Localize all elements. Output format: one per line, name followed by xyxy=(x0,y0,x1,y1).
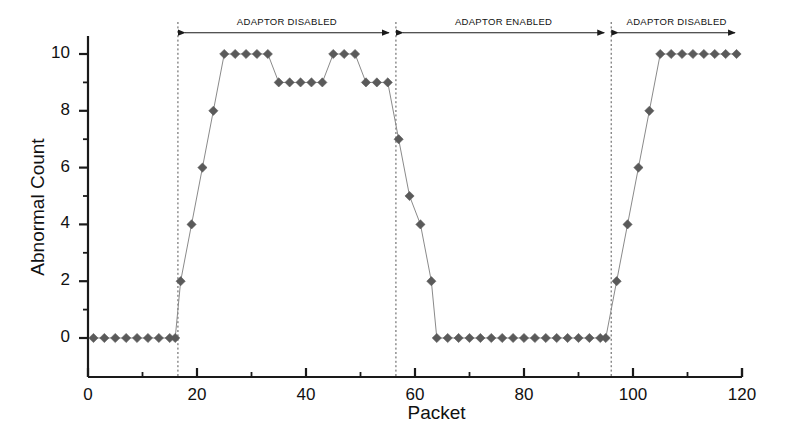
data-point xyxy=(612,277,621,286)
data-point xyxy=(585,333,594,342)
data-point xyxy=(645,106,654,115)
y-tick-label: 6 xyxy=(30,157,70,177)
data-point xyxy=(187,220,196,229)
data-point xyxy=(519,333,528,342)
data-point xyxy=(563,333,572,342)
data-point xyxy=(372,78,381,87)
data-point xyxy=(721,49,730,58)
data-point xyxy=(350,49,359,58)
data-point xyxy=(552,333,561,342)
data-point xyxy=(509,333,518,342)
y-tick-label: 0 xyxy=(30,327,70,347)
data-point xyxy=(710,49,719,58)
data-point xyxy=(541,333,550,342)
data-point xyxy=(296,78,305,87)
data-point xyxy=(241,49,250,58)
x-tick-label: 80 xyxy=(494,385,554,405)
region-annotation-label: ADAPTOR DISABLED xyxy=(587,16,767,27)
data-point xyxy=(231,49,240,58)
data-point xyxy=(405,191,414,200)
data-point xyxy=(132,333,141,342)
data-point xyxy=(209,106,218,115)
data-point xyxy=(318,78,327,87)
data-point xyxy=(285,78,294,87)
data-point xyxy=(274,78,283,87)
y-tick-label: 8 xyxy=(30,100,70,120)
data-point xyxy=(699,49,708,58)
data-point xyxy=(340,49,349,58)
chart-canvas xyxy=(0,0,785,446)
data-point xyxy=(623,220,632,229)
data-point xyxy=(220,49,229,58)
x-axis-title: Packet xyxy=(0,402,785,424)
data-point xyxy=(476,333,485,342)
data-point xyxy=(89,333,98,342)
x-tick-label: 120 xyxy=(712,385,772,405)
data-point xyxy=(432,333,441,342)
data-point xyxy=(111,333,120,342)
chart-figure: Abnormal Count Packet 0246810 0204060801… xyxy=(0,0,785,446)
data-point xyxy=(329,49,338,58)
y-tick-label: 4 xyxy=(30,213,70,233)
data-point xyxy=(361,78,370,87)
data-point xyxy=(443,333,452,342)
series-markers xyxy=(89,49,741,342)
data-point xyxy=(530,333,539,342)
data-point xyxy=(688,49,697,58)
data-point xyxy=(601,333,610,342)
data-point xyxy=(498,333,507,342)
x-tick-label: 100 xyxy=(603,385,663,405)
x-axis-title-text: Packet xyxy=(407,402,465,423)
data-point xyxy=(263,49,272,58)
x-tick-label: 20 xyxy=(167,385,227,405)
data-point xyxy=(383,78,392,87)
x-tick-label: 40 xyxy=(276,385,336,405)
data-point xyxy=(656,49,665,58)
data-point xyxy=(427,277,436,286)
x-tick-label: 60 xyxy=(385,385,445,405)
series-line xyxy=(93,54,736,338)
data-point xyxy=(634,163,643,172)
region-annotation-label: ADAPTOR ENABLED xyxy=(414,16,594,27)
data-point xyxy=(732,49,741,58)
data-point xyxy=(465,333,474,342)
data-point xyxy=(667,49,676,58)
data-point xyxy=(122,333,131,342)
data-point xyxy=(143,333,152,342)
data-point xyxy=(252,49,261,58)
data-point xyxy=(574,333,583,342)
data-point xyxy=(487,333,496,342)
data-point xyxy=(416,220,425,229)
data-point xyxy=(454,333,463,342)
y-tick-label: 10 xyxy=(30,43,70,63)
data-point xyxy=(307,78,316,87)
data-point xyxy=(154,333,163,342)
data-point xyxy=(677,49,686,58)
x-tick-label: 0 xyxy=(58,385,118,405)
data-point xyxy=(100,333,109,342)
y-tick-label: 2 xyxy=(30,270,70,290)
data-point xyxy=(198,163,207,172)
region-annotation-label: ADAPTOR DISABLED xyxy=(197,16,377,27)
